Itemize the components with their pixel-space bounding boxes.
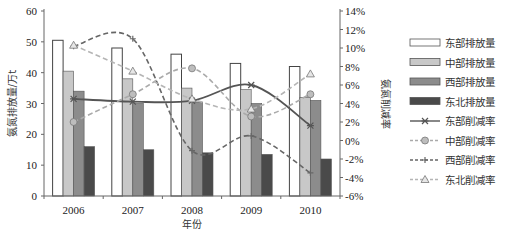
legend-label: 中部排放量	[445, 57, 496, 69]
legend-swatch	[410, 39, 440, 46]
legend-label: 东北排放量	[445, 96, 496, 108]
data-point-marker	[422, 157, 428, 163]
y-tick-label: 50	[26, 36, 38, 48]
bar	[63, 71, 74, 196]
y2-tick-label: 0%	[345, 135, 360, 147]
data-point-marker	[129, 91, 136, 98]
bar	[321, 159, 332, 196]
data-point-marker	[422, 118, 429, 124]
legend-label: 东部排放量	[445, 37, 496, 49]
y-tick-label: 40	[26, 67, 38, 79]
bar	[74, 91, 85, 196]
y2-tick-label: 12%	[345, 24, 365, 36]
bar	[203, 153, 214, 196]
bar	[241, 90, 252, 196]
bar-series-group	[53, 40, 332, 196]
x-tick-label: 2007	[122, 204, 145, 216]
data-point-marker	[306, 70, 314, 77]
y2-tick-label: -2%	[345, 153, 363, 165]
y-axis-title: 氨氮排放量/万t	[6, 70, 18, 137]
legend-swatch	[410, 98, 440, 105]
y-tick-label: 60	[26, 5, 38, 17]
bar	[300, 97, 311, 196]
bar	[133, 104, 144, 197]
data-point-marker	[307, 91, 314, 98]
x-tick-label: 2008	[181, 204, 204, 216]
y2-tick-label: 8%	[345, 61, 360, 73]
bar	[182, 88, 193, 196]
y2-tick-label: 10%	[345, 42, 365, 54]
y2-tick-label: -4%	[345, 172, 363, 184]
y-tick-label: 0	[32, 190, 38, 202]
legend-label: 东北削减率	[445, 174, 495, 186]
y-tick-label: 30	[26, 98, 38, 110]
data-point-marker	[189, 65, 196, 72]
legend: 东部排放量中部排放量西部排放量东北排放量东部削减率中部削减率西部削减率东北削减率	[410, 37, 496, 186]
bar	[84, 147, 95, 196]
legend-swatch	[410, 59, 440, 66]
y-tick-label: 20	[26, 128, 38, 140]
y2-tick-label: 2%	[345, 116, 360, 128]
bar	[192, 102, 203, 196]
data-point-marker	[248, 82, 255, 88]
data-point-marker	[70, 119, 77, 126]
bar	[112, 48, 123, 196]
bar	[143, 150, 154, 196]
y2-tick-label: 6%	[345, 79, 360, 91]
bar	[310, 100, 321, 196]
legend-label: 中部削减率	[445, 135, 495, 147]
x-axis-title: 年份	[182, 218, 202, 230]
data-point-marker	[129, 67, 137, 74]
y-tick-label: 10	[26, 159, 38, 171]
y2-tick-label: 14%	[345, 5, 365, 17]
legend-label: 西部削减率	[445, 154, 495, 166]
bar	[230, 63, 241, 196]
y2-axis-title: 氨氮削减率	[380, 79, 392, 129]
legend-label: 西部排放量	[445, 76, 496, 88]
legend-swatch	[410, 78, 440, 85]
data-point-marker	[422, 137, 429, 144]
bar	[53, 40, 64, 196]
y2-tick-label: -6%	[345, 190, 363, 202]
chart: 0102030405060-6%-4%-2%0%2%4%6%8%10%12%14…	[0, 0, 507, 236]
x-tick-label: 2009	[240, 204, 263, 216]
y2-tick-label: 4%	[345, 98, 360, 110]
x-tick-label: 2006	[63, 204, 86, 216]
data-point-marker	[248, 113, 255, 120]
bar	[262, 154, 273, 196]
legend-label: 东部削减率	[445, 115, 495, 127]
x-tick-label: 2010	[299, 204, 322, 216]
